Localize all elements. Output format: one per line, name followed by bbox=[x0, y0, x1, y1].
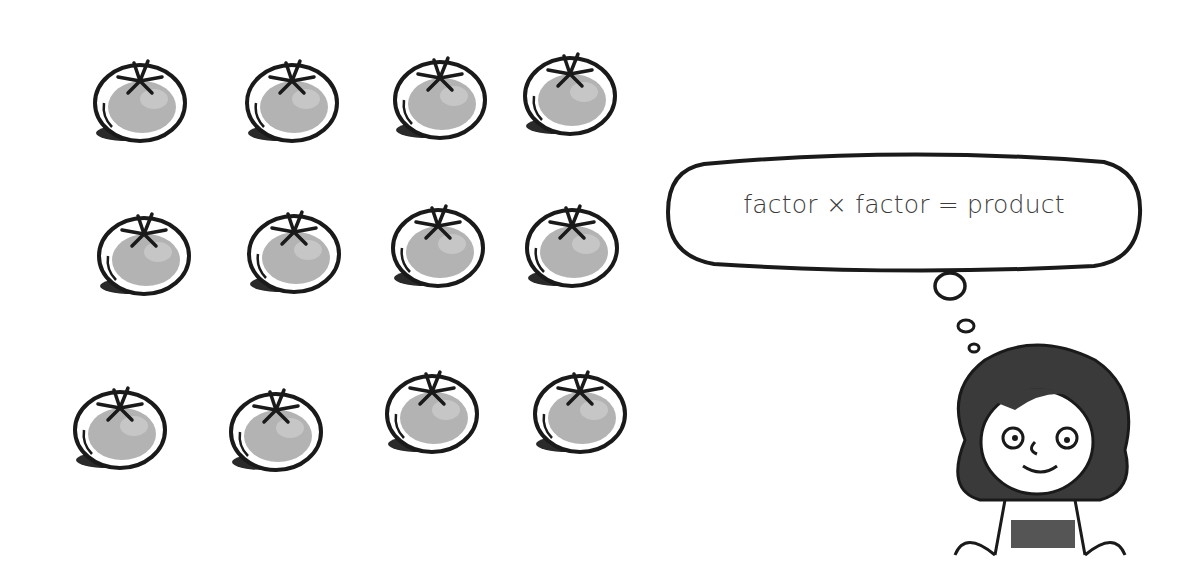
tomato-icon bbox=[92, 208, 192, 298]
tomato-icon bbox=[88, 55, 188, 145]
tomato-icon bbox=[518, 48, 618, 138]
thinking-child-icon bbox=[935, 330, 1145, 560]
thought-bubble-text: factor × factor = product bbox=[664, 190, 1144, 219]
tomato-icon bbox=[240, 55, 340, 145]
tomato-icon bbox=[224, 384, 324, 474]
tomato-icon bbox=[528, 366, 628, 456]
tomato-icon bbox=[388, 52, 488, 142]
tomato-icon bbox=[386, 200, 486, 290]
tomato-icon bbox=[242, 206, 342, 296]
tomato-icon bbox=[68, 382, 168, 472]
tomato-icon bbox=[520, 200, 620, 290]
tomato-icon bbox=[380, 366, 480, 456]
